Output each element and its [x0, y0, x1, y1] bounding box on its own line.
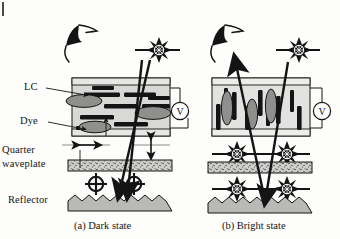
svg-text:V: V	[318, 106, 326, 117]
lcd-dark-bright-state-diagram: V	[0, 0, 340, 239]
label-quarter-waveplate-line1: Quarter	[2, 144, 35, 156]
panel-dark-state: V	[46, 25, 189, 211]
incident-light-starburst	[276, 37, 320, 63]
optic-axis-markers	[62, 136, 170, 156]
label-lc: LC	[24, 81, 38, 93]
incident-light-starburst	[135, 37, 180, 63]
label-dye: Dye	[20, 115, 38, 127]
circular-polarization-markers	[85, 173, 145, 195]
label-quarter-waveplate-line2: waveplate	[2, 158, 45, 170]
reflector-layer	[68, 195, 172, 211]
voltmeter-symbol: V	[313, 102, 330, 119]
voltmeter-symbol: V	[171, 102, 188, 119]
reflector-layer	[208, 197, 312, 213]
caption-panel-a: (a) Dark state	[74, 220, 131, 231]
observer-eye-icon	[65, 25, 97, 62]
top-substrate	[72, 78, 170, 85]
svg-text:V: V	[176, 106, 184, 117]
top-substrate	[212, 78, 310, 85]
label-reflector: Reflector	[8, 194, 48, 206]
observer-eye-icon	[211, 25, 243, 62]
quarter-waveplate-layer	[68, 160, 172, 171]
caption-panel-b: (b) Bright state	[222, 220, 286, 231]
panel-bright-state: V	[208, 25, 331, 213]
quarter-waveplate-layer	[208, 162, 312, 173]
bottom-substrate	[212, 129, 310, 136]
